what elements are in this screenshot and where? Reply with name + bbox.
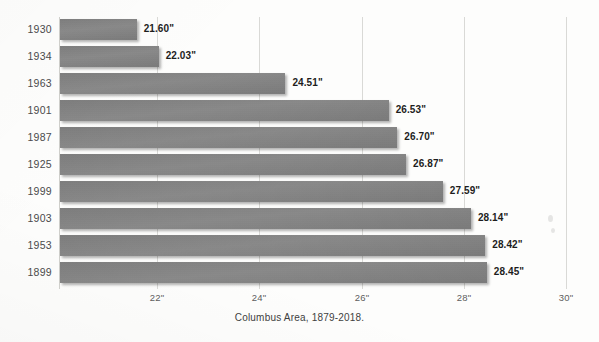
x-axis-tick-label: 24" (252, 292, 267, 303)
bar-1963[interactable] (60, 73, 285, 94)
bar-1999[interactable] (60, 181, 443, 202)
bar-row: 192526.87" (0, 154, 599, 175)
category-label-1901: 1901 (27, 104, 52, 116)
category-label-1903: 1903 (27, 212, 52, 224)
x-axis-tick-label: 26" (355, 292, 370, 303)
value-label-1934: 22.03" (166, 50, 196, 61)
bar-row: 193021.60" (0, 19, 599, 40)
bar-1903[interactable] (60, 208, 471, 229)
chart-caption: Columbus Area, 1879-2018. (0, 312, 599, 323)
category-label-1963: 1963 (27, 77, 52, 89)
bar-row: 193422.03" (0, 46, 599, 67)
x-axis-tick-label: 22" (150, 292, 165, 303)
bar-chart: 22"24"26"28"30" 193021.60"193422.03"1963… (0, 0, 599, 342)
category-label-1930: 1930 (27, 23, 52, 35)
bar-1930[interactable] (60, 19, 137, 40)
bar-row: 196324.51" (0, 73, 599, 94)
category-label-1953: 1953 (27, 239, 52, 251)
value-label-1925: 26.87" (413, 158, 443, 169)
category-label-1925: 1925 (27, 158, 52, 170)
bar-1901[interactable] (60, 100, 389, 121)
bar-1925[interactable] (60, 154, 406, 175)
bar-row: 190126.53" (0, 100, 599, 121)
bar-1934[interactable] (60, 46, 159, 67)
bar-row: 189928.45" (0, 262, 599, 283)
value-label-1903: 28.14" (478, 212, 508, 223)
value-label-1953: 28.42" (492, 239, 522, 250)
category-label-1899: 1899 (27, 266, 52, 278)
bar-1987[interactable] (60, 127, 397, 148)
value-label-1963: 24.51" (292, 77, 322, 88)
x-axis-tick-label: 30" (559, 292, 574, 303)
value-label-1899: 28.45" (494, 266, 524, 277)
category-label-1934: 1934 (27, 50, 52, 62)
value-label-1901: 26.53" (396, 104, 426, 115)
value-label-1987: 26.70" (404, 131, 434, 142)
bar-row: 199927.59" (0, 181, 599, 202)
category-label-1987: 1987 (27, 131, 52, 143)
x-axis-tick-label: 28" (457, 292, 472, 303)
bar-1899[interactable] (60, 262, 487, 283)
value-label-1930: 21.60" (144, 23, 174, 34)
bar-row: 195328.42" (0, 235, 599, 256)
plot-area: 22"24"26"28"30" 193021.60"193422.03"1963… (0, 0, 599, 342)
bar-1953[interactable] (60, 235, 485, 256)
category-label-1999: 1999 (27, 185, 52, 197)
bar-row: 190328.14" (0, 208, 599, 229)
bar-row: 198726.70" (0, 127, 599, 148)
value-label-1999: 27.59" (450, 185, 480, 196)
